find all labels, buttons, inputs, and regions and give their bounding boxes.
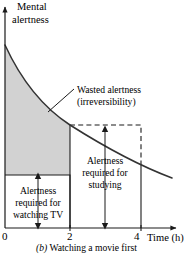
y-axis-label-line1: Mental [17, 1, 47, 13]
annotation-studying-line2: required for [73, 167, 137, 178]
x-tick-label-0: 0 [2, 231, 8, 243]
figure-caption-text: Watching a movie first [47, 242, 137, 253]
annotation-watching-tv-line2: required for [6, 197, 70, 208]
wasted-alertness-leader-line [48, 89, 74, 112]
annotation-wasted-alertness-line2: (irreversibility) [77, 96, 136, 107]
annotation-studying-line3: studying [73, 179, 137, 190]
figure-caption: (b) Watching a movie first [36, 243, 137, 253]
figure-caption-prefix: (b) [36, 242, 47, 253]
figure-watching-movie-first: Mental alertness Wasted alertness (irrev… [0, 0, 184, 256]
annotation-studying-line1: Alertness [73, 155, 137, 166]
annotation-watching-tv-line3: watching TV [6, 209, 70, 220]
annotation-wasted-alertness-line1: Wasted alertness [77, 84, 141, 95]
x-axis-label: Time (h) [147, 232, 184, 244]
annotation-watching-tv-line1: Alertness [6, 185, 70, 196]
y-axis-label-line2: alertness [12, 14, 49, 26]
